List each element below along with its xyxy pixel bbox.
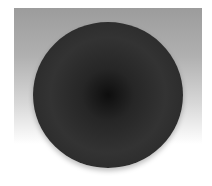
dark-disc [33, 22, 183, 168]
